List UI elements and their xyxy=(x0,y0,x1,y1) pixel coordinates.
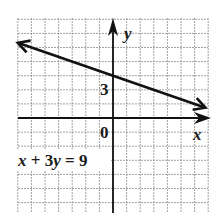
equation-label: x + 3y = 9 xyxy=(17,151,87,170)
equation-x: x xyxy=(17,151,27,170)
equation-line xyxy=(18,41,206,110)
coordinate-graph: y x 3 0 x + 3y = 9 xyxy=(0,0,223,213)
origin-label: 0 xyxy=(100,123,109,142)
equation-plus: + 3 xyxy=(27,151,54,170)
equation-line-segment xyxy=(18,43,206,108)
tick-label-3: 3 xyxy=(100,80,109,99)
x-axis-label: x xyxy=(192,125,202,144)
equation-rhs: = 9 xyxy=(61,151,88,170)
equation-y: y xyxy=(51,151,61,170)
y-axis-label: y xyxy=(122,24,132,43)
